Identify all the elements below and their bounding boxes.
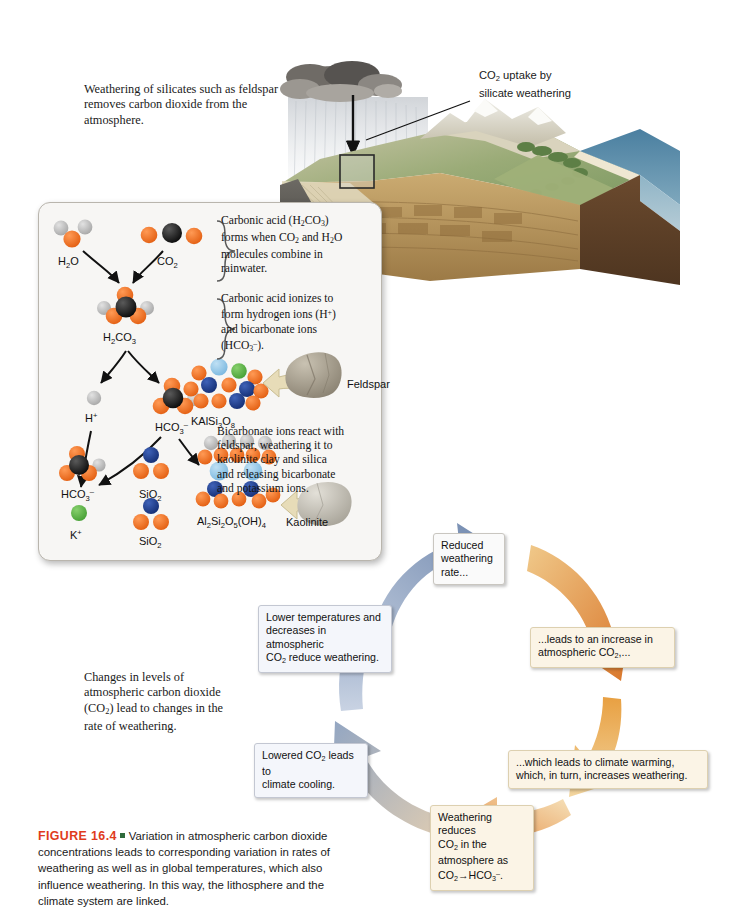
- figure-caption: FIGURE 16.4Variation in atmospheric carb…: [38, 828, 358, 909]
- rock-feldspar: [285, 352, 341, 398]
- cycle-box-reduced-weathering-line3: rate...: [441, 566, 468, 578]
- cycle-box-climate-warming: ...which leads to climate warming,which,…: [508, 750, 708, 789]
- cycle-box-lowered-co2-cooling: Lowered CO2 leads toclimate cooling.: [254, 743, 368, 798]
- study-square: [340, 155, 374, 188]
- block-diagram-label: CO2 uptake by silicate weathering: [479, 68, 609, 100]
- arrow-co2-to-acid: [133, 251, 163, 283]
- cycle-box-reduced-weathering: Reduced weathering rate...: [433, 533, 505, 585]
- label-hco3-product: HCO3–: [61, 487, 95, 503]
- annotation-top-left: Weathering of silicates such as feldspar…: [84, 82, 294, 128]
- inset-step-ionization: Carbonic acid ionizes toform hydrogen io…: [221, 292, 373, 356]
- molecule-hco3-product: [59, 446, 106, 481]
- molecule-h2o: [54, 220, 93, 248]
- molecule-sio2-2: [133, 498, 169, 530]
- inset-step-feldspar-weathering: Bicarbonate ions react withfeldspar, wea…: [217, 425, 375, 496]
- label-k-ion: K+: [70, 528, 82, 541]
- figure-number: FIGURE 16.4: [38, 829, 117, 843]
- molecule-feldspar: [183, 358, 268, 410]
- block-diagram-label-line2: silicate weathering: [479, 87, 571, 99]
- cycle-box-reduced-weathering-line2: weathering: [441, 552, 493, 564]
- arrow-acid-to-bicarb: [128, 351, 159, 383]
- label-h2co3: H2CO3: [103, 331, 136, 346]
- cycle-box-increase-co2: ...leads to an increase inatmospheric CO…: [530, 627, 675, 668]
- rock-label-feldspar: Feldspar: [347, 378, 390, 390]
- molecule-h2co3: [97, 287, 154, 325]
- molecule-h-ion: [87, 391, 101, 405]
- caption-bullet-icon: [120, 833, 125, 838]
- chemistry-inset-panel: H2O CO2 H2CO3 H+: [38, 202, 382, 561]
- arrow-h2o-to-acid: [83, 251, 119, 283]
- molecule-k-ion: [71, 505, 87, 521]
- label-co2: CO2: [157, 255, 178, 270]
- inset-step-carbonic-acid: Carbonic acid (H2CO3)forms when CO2 and …: [221, 214, 371, 276]
- label-hco3-top: HCO3–: [155, 420, 189, 436]
- block-diagram-label-line1: CO2 uptake by: [479, 69, 552, 81]
- label-sio2-2: SiO2: [139, 535, 162, 550]
- storm-cloud: [280, 61, 402, 102]
- cycle-box-weathering-reduces-co2: Weathering reducesCO2 in theatmosphere a…: [430, 805, 534, 891]
- molecule-co2: [141, 223, 203, 244]
- molecule-sio2-1: [133, 447, 169, 479]
- cycle-box-lower-temperatures: Lower temperatures anddecreases in atmos…: [258, 605, 392, 673]
- arrow-acid-to-h: [101, 351, 126, 383]
- label-h-ion: H+: [85, 411, 98, 424]
- cycle-box-reduced-weathering-line1: Reduced: [441, 539, 483, 551]
- label-h2o: H2O: [58, 255, 79, 270]
- arrow-bicarb-to-silica: [179, 439, 199, 465]
- feedback-cycle-diagram: Reduced weathering rate... ...leads to a…: [235, 515, 725, 880]
